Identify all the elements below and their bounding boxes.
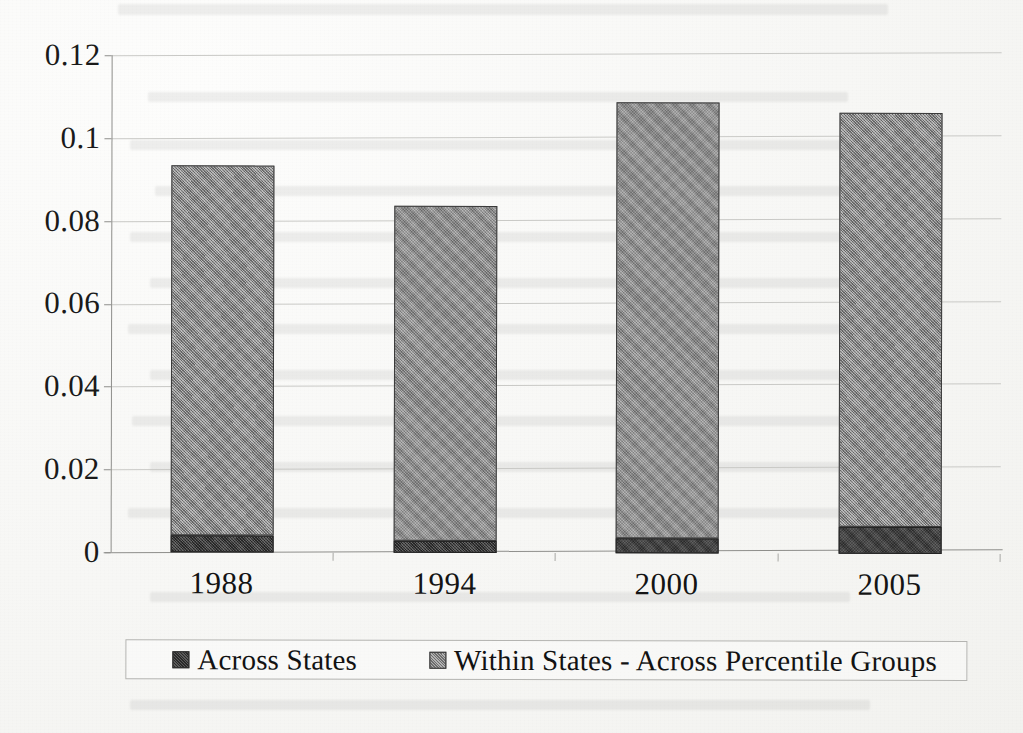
- bar-segment-across-states[interactable]: [171, 535, 274, 552]
- legend-item-across-states[interactable]: Across States: [172, 645, 357, 674]
- bar-segment-within-states[interactable]: [394, 206, 498, 541]
- y-tick-label: 0.1: [0, 120, 100, 156]
- x-tick-label-2000: 2000: [635, 566, 699, 602]
- x-axis-tick: [333, 553, 334, 561]
- bar-segment-across-states[interactable]: [839, 526, 942, 554]
- y-tick-label: 0.12: [1, 37, 101, 73]
- y-axis-labels: 0.12 0.1 0.08 0.06 0.04 0.02 0: [1, 0, 1023, 1]
- chart-legend: Across States Within States - Across Per…: [125, 639, 967, 681]
- x-axis-tick: [555, 553, 556, 561]
- y-axis-tick: [104, 469, 111, 470]
- bar-segment-within-states[interactable]: [171, 165, 275, 535]
- legend-label: Across States: [197, 645, 357, 674]
- x-tick-label-1988: 1988: [190, 565, 254, 601]
- x-axis-labels: 1988 1994 2000 2005: [1, 0, 1023, 1]
- y-axis-tick: [104, 138, 111, 139]
- x-tick-label-1994: 1994: [413, 566, 477, 602]
- y-axis-tick: [104, 386, 111, 387]
- legend-label: Within States - Across Percentile Groups: [454, 645, 937, 675]
- bar-segment-across-states[interactable]: [616, 538, 719, 554]
- bar-chart: 0.12 0.1 0.08 0.06 0.04 0.02 0: [0, 0, 1023, 733]
- y-axis-tick: [104, 304, 111, 305]
- bar-group-2005[interactable]: [839, 113, 943, 554]
- plot-area: [111, 55, 1002, 554]
- bar-segment-within-states[interactable]: [839, 113, 943, 527]
- bar-segment-within-states[interactable]: [616, 102, 720, 538]
- y-tick-label: 0.04: [0, 368, 100, 404]
- y-tick-label: 0: [0, 534, 100, 570]
- gridline: [112, 52, 1002, 56]
- bar-group-2000[interactable]: [616, 102, 720, 554]
- x-tick-label-2005: 2005: [858, 567, 922, 603]
- y-axis-tick: [104, 552, 111, 553]
- bar-segment-across-states[interactable]: [394, 541, 497, 553]
- y-tick-label: 0.06: [0, 285, 100, 321]
- gray-square-swatch-icon: [429, 651, 446, 668]
- bar-group-1994[interactable]: [394, 206, 498, 553]
- x-axis-tick: [778, 554, 779, 562]
- legend-item-within-states[interactable]: Within States - Across Percentile Groups: [429, 645, 937, 675]
- dark-square-swatch-icon: [172, 651, 189, 668]
- y-tick-label: 0.02: [0, 451, 100, 487]
- y-tick-label: 0.08: [0, 203, 100, 239]
- bar-group-1988[interactable]: [171, 165, 275, 552]
- y-axis-tick: [104, 221, 111, 222]
- x-axis-tick: [1000, 554, 1001, 562]
- y-axis-tick: [105, 55, 112, 56]
